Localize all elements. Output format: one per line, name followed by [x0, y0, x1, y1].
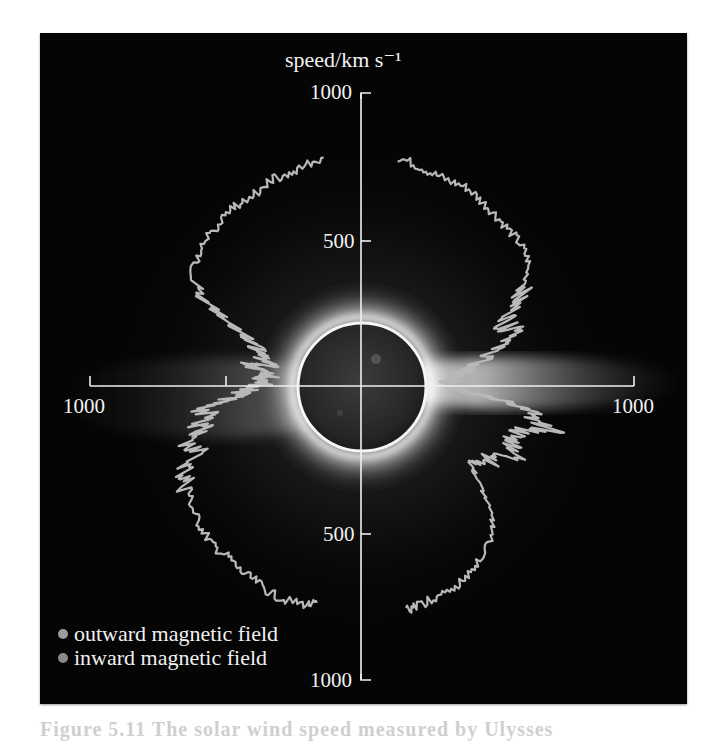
polar-speed-plot: [40, 33, 687, 704]
tick-label-bottom-1000: 1000: [310, 670, 352, 691]
sun-disk: [298, 323, 426, 451]
legend-outward-label: outward magnetic field: [74, 623, 278, 645]
tick-label-right-1000: 1000: [612, 396, 654, 417]
solar-image: [60, 147, 680, 627]
radial-axis-title: speed/km s⁻¹: [285, 49, 402, 71]
top-1000-tick: [361, 93, 371, 99]
legend-inward-label: inward magnetic field: [74, 647, 267, 669]
inward-field-dot-icon: [58, 653, 68, 663]
tick-label-left-1000: 1000: [63, 396, 105, 417]
tick-label-top-1000: 1000: [310, 82, 352, 103]
figure-panel: speed/km s⁻¹ 1000 500 500 1000 1000 1000…: [40, 33, 687, 704]
tick-label-lower-500: 500: [323, 524, 355, 545]
legend-outward: outward magnetic field: [58, 623, 278, 645]
tick-label-upper-500: 500: [323, 231, 355, 252]
legend-inward: inward magnetic field: [58, 647, 267, 669]
bottom-1000-tick: [361, 674, 371, 680]
figure-caption-clipped: Figure 5.11 The solar wind speed measure…: [40, 718, 553, 741]
outward-field-dot-icon: [58, 629, 68, 639]
